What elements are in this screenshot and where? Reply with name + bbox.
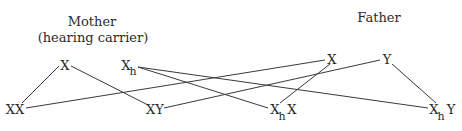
allele-mother-x: X	[60, 58, 70, 73]
allele-base: Y	[382, 52, 392, 67]
genotype-part: Y	[446, 102, 456, 117]
edge-f_y-to-o_xy	[164, 60, 380, 108]
allele-base: X	[327, 52, 337, 67]
allele-subscript: h	[129, 65, 136, 78]
genotype-subscript: h	[278, 110, 285, 123]
edge-f_x-to-o_xx	[26, 60, 325, 108]
edge-m_x-to-o_xx	[22, 66, 59, 103]
father-title: Father	[357, 10, 401, 25]
diagram-canvas: Mother (hearing carrier) Father X X h X …	[0, 0, 462, 131]
edge-f_y-to-o_xhy	[392, 64, 436, 103]
mother-title: Mother	[68, 14, 117, 29]
offspring-xy: XY	[146, 102, 164, 117]
genotype-label: XY	[146, 102, 164, 117]
genotype-label: XX	[6, 102, 25, 117]
edge-m_xh-to-o_xhy	[138, 67, 428, 108]
mother-subtitle: (hearing carrier)	[38, 30, 149, 45]
edges	[22, 60, 436, 108]
offspring-xx: XX	[6, 102, 25, 117]
allele-father-y: Y	[382, 52, 392, 67]
allele-mother-xh: X h	[121, 58, 136, 78]
genotype-part: X	[287, 102, 297, 117]
allele-father-x: X	[327, 52, 337, 67]
genotype-subscript: h	[437, 110, 444, 123]
offspring-xhx: X h X	[270, 102, 297, 123]
allele-base: X	[60, 58, 70, 73]
offspring-xhy: X h Y	[429, 102, 455, 123]
edge-f_x-to-o_xhx	[280, 64, 330, 103]
inheritance-diagram: Mother (hearing carrier) Father X X h X …	[0, 0, 462, 131]
